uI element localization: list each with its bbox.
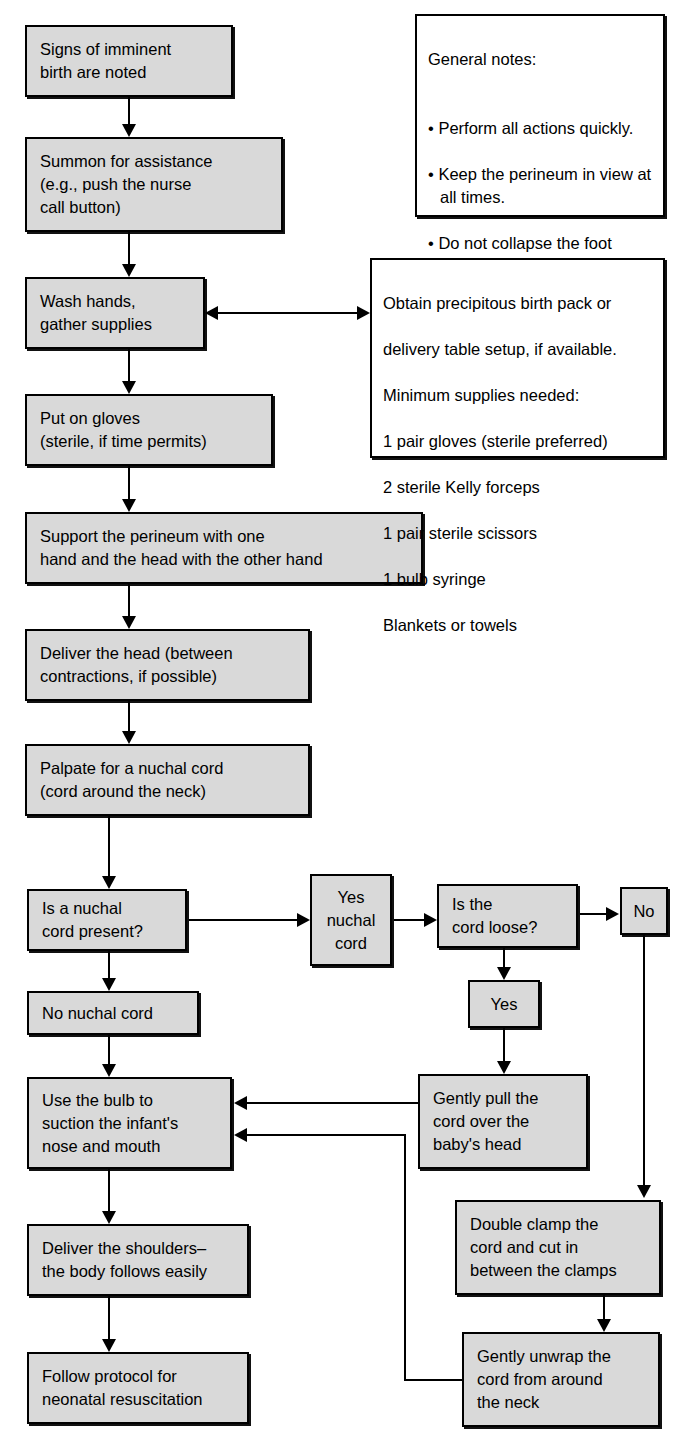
connector-gently-pull-to-bulb [246, 1102, 418, 1104]
node-label: Follow protocol for neonatal resuscitati… [29, 1365, 203, 1411]
arrowhead-down-icon [102, 1211, 116, 1224]
node-deliver-the-shoulders[interactable]: Deliver the shoulders– the body follows … [27, 1224, 249, 1296]
general-notes-panel: General notes: Perform all actions quick… [415, 14, 665, 217]
arrowhead-down-icon [122, 124, 136, 137]
connector-unwrap-to-bulb-horizontal [246, 1134, 406, 1136]
connector-bulb-to-shoulders [108, 1169, 110, 1211]
arrowhead-down-icon [122, 264, 136, 277]
node-is-a-nuchal-cord-present[interactable]: Is a nuchal cord present? [27, 889, 187, 951]
supplies-line: Obtain precipitous birth pack or [383, 292, 663, 315]
supplies-line: 2 sterile Kelly forceps [383, 476, 663, 499]
node-double-clamp-the-cord[interactable]: Double clamp the cord and cut in between… [455, 1200, 661, 1295]
arrowhead-right-icon [357, 306, 370, 320]
connector-double-clamp-to-unwrap [603, 1295, 605, 1319]
connector-shoulders-to-follow-protocol [108, 1296, 110, 1339]
node-use-the-bulb-to-suction[interactable]: Use the bulb to suction the infant's nos… [27, 1077, 232, 1169]
connector-palpate-to-is-nuchal [108, 816, 110, 876]
connector-no-nuchal-to-bulb [108, 1035, 110, 1064]
node-support-the-perineum[interactable]: Support the perineum with one hand and t… [25, 512, 423, 584]
supplies-note-panel: Obtain precipitous birth pack or deliver… [370, 258, 665, 458]
arrowhead-down-icon [102, 876, 116, 889]
connector-unwrap-to-bulb-vertical [404, 1134, 406, 1381]
node-label: Put on gloves (sterile, if time permits) [27, 407, 207, 453]
node-wash-hands-gather-supplies[interactable]: Wash hands, gather supplies [25, 277, 205, 349]
supplies-line: 1 pair gloves (sterile preferred) [383, 430, 663, 453]
connector-wash-to-supplies [217, 312, 358, 314]
node-label: Gently pull the cord over the baby's hea… [420, 1087, 538, 1156]
general-notes-item: Keep the perineum in view at all times. [428, 163, 663, 209]
arrowhead-down-icon [497, 1061, 511, 1074]
arrowhead-down-icon [102, 978, 116, 991]
node-label: Use the bulb to suction the infant's nos… [29, 1089, 178, 1158]
node-no-nuchal-cord[interactable]: No nuchal cord [27, 991, 199, 1035]
connector-no-to-double-clamp [643, 935, 645, 1185]
node-label: Deliver the shoulders– the body follows … [29, 1237, 207, 1283]
node-gently-pull-the-cord[interactable]: Gently pull the cord over the baby's hea… [418, 1074, 588, 1169]
node-label: Yes [491, 993, 518, 1016]
arrowhead-down-icon [122, 616, 136, 629]
arrowhead-down-icon [102, 1064, 116, 1077]
node-label: Deliver the head (between contractions, … [27, 642, 233, 688]
node-yes-nuchal-cord[interactable]: Yes nuchal cord [310, 874, 392, 966]
general-notes-item: Perform all actions quickly. [428, 117, 663, 140]
node-label: No nuchal cord [29, 1002, 153, 1025]
connector-gloves-to-support [128, 466, 130, 499]
node-yes-cord-loose[interactable]: Yes [468, 980, 540, 1028]
supplies-line: Minimum supplies needed: [383, 384, 663, 407]
supplies-note-body: Obtain precipitous birth pack or deliver… [372, 260, 663, 660]
arrowhead-right-icon [297, 913, 310, 927]
arrowhead-down-icon [122, 499, 136, 512]
node-label: Is the cord loose? [439, 893, 537, 939]
connector-is-loose-to-no [580, 913, 608, 915]
connector-yes-nuchal-to-is-loose [394, 919, 426, 921]
general-notes-heading: General notes: [428, 48, 663, 71]
connector-wash-to-gloves [128, 349, 130, 381]
node-label: Gently unwrap the cord from around the n… [464, 1345, 611, 1414]
node-label: Double clamp the cord and cut in between… [457, 1213, 617, 1282]
node-label: No [633, 900, 654, 923]
supplies-line: delivery table setup, if available. [383, 338, 663, 361]
node-label: Palpate for a nuchal cord (cord around t… [27, 757, 223, 803]
node-label: Wash hands, gather supplies [27, 290, 152, 336]
connector-summon-to-wash [128, 232, 130, 264]
arrowhead-down-icon [122, 731, 136, 744]
node-signs-of-imminent-birth[interactable]: Signs of imminent birth are noted [25, 25, 233, 97]
arrowhead-left-icon [205, 306, 218, 320]
arrowhead-right-icon [606, 907, 619, 921]
supplies-line: 1 pair sterile scissors [383, 522, 663, 545]
node-label: Yes nuchal cord [327, 886, 376, 955]
node-label: Support the perineum with one hand and t… [27, 525, 323, 571]
connector-yes-to-gently-pull [503, 1028, 505, 1061]
arrowhead-down-icon [637, 1185, 651, 1198]
supplies-line: Blankets or towels [383, 614, 663, 637]
connector-is-nuchal-to-no-nuchal [108, 951, 110, 978]
arrowhead-down-icon [102, 1339, 116, 1352]
arrowhead-left-icon [234, 1096, 247, 1110]
node-palpate-for-nuchal-cord[interactable]: Palpate for a nuchal cord (cord around t… [25, 744, 310, 816]
node-follow-protocol-neonatal-resuscitation[interactable]: Follow protocol for neonatal resuscitati… [27, 1352, 249, 1424]
connector-is-nuchal-to-yes-nuchal [189, 919, 299, 921]
node-label: Signs of imminent birth are noted [27, 38, 171, 84]
connector-unwrap-to-bulb-tail [404, 1379, 464, 1381]
node-label: Summon for assistance (e.g., push the nu… [27, 150, 212, 219]
node-no-cord-not-loose[interactable]: No [620, 887, 668, 935]
connector-deliver-head-to-palpate [128, 701, 130, 731]
node-put-on-gloves[interactable]: Put on gloves (sterile, if time permits) [25, 394, 273, 466]
arrowhead-down-icon [597, 1319, 611, 1332]
node-is-the-cord-loose[interactable]: Is the cord loose? [437, 884, 578, 948]
connector-is-loose-to-yes [503, 948, 505, 967]
node-deliver-the-head[interactable]: Deliver the head (between contractions, … [25, 629, 310, 701]
arrowhead-down-icon [497, 967, 511, 980]
connector-signs-to-summon [128, 97, 130, 124]
arrowhead-down-icon [122, 381, 136, 394]
connector-support-to-deliver-head [128, 584, 130, 616]
flowchart-canvas: Signs of imminent birth are noted Summon… [0, 0, 684, 1445]
supplies-line: 1 bulb syringe [383, 568, 663, 591]
node-label: Is a nuchal cord present? [29, 897, 143, 943]
node-gently-unwrap-the-cord[interactable]: Gently unwrap the cord from around the n… [462, 1332, 660, 1427]
node-summon-for-assistance[interactable]: Summon for assistance (e.g., push the nu… [25, 137, 283, 232]
arrowhead-left-icon [234, 1128, 247, 1142]
arrowhead-right-icon [424, 913, 437, 927]
